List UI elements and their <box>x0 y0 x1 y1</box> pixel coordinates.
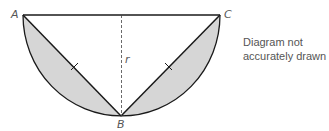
radius-label: r <box>125 53 131 66</box>
point-label-A: A <box>10 8 19 21</box>
semicircle-diagram: A C B r <box>0 0 329 131</box>
note-line-1: Diagram not <box>243 35 326 49</box>
note-line-2: accurately drawn <box>243 49 326 63</box>
diagram-note: Diagram not accurately drawn <box>243 35 326 63</box>
point-label-C: C <box>224 8 232 21</box>
point-label-B: B <box>117 118 125 131</box>
